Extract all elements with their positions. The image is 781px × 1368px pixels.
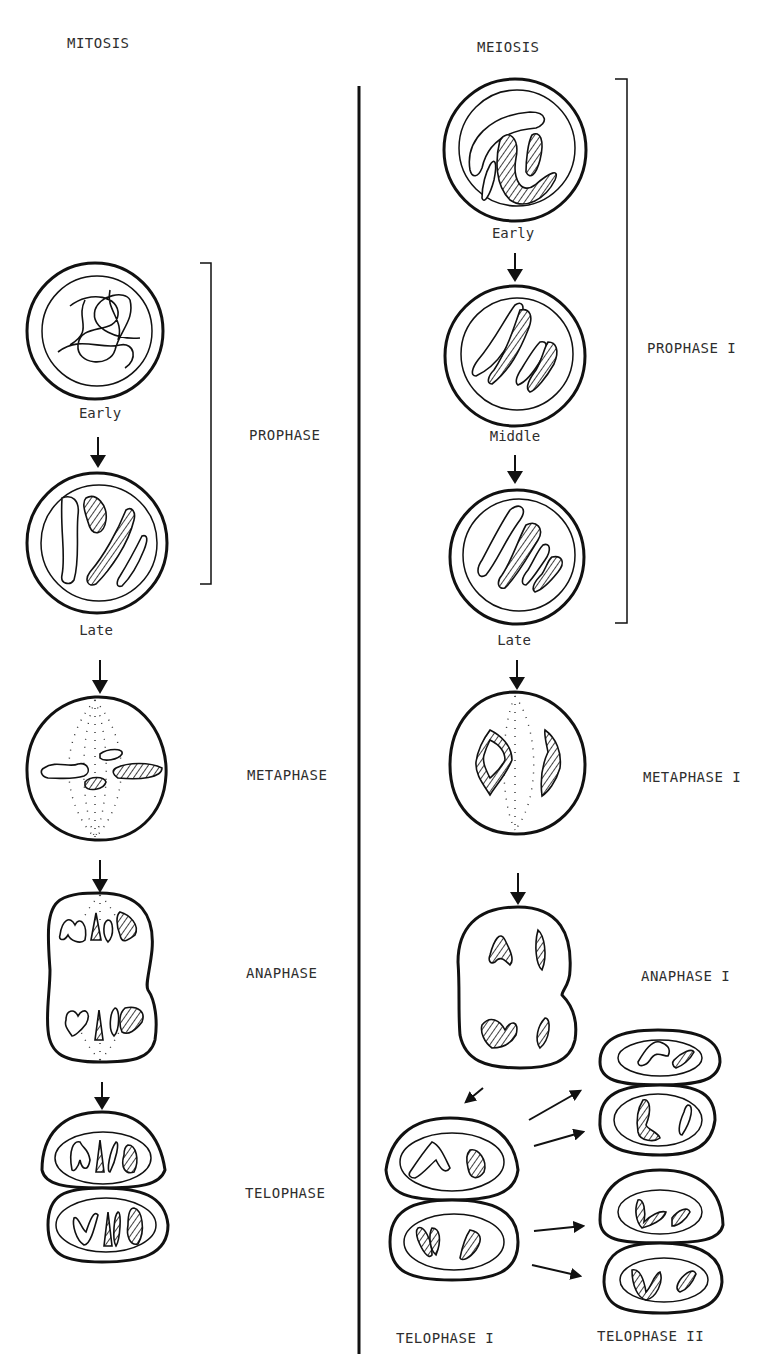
prophase-i-bracket <box>615 79 627 623</box>
anaphase-label: ANAPHASE <box>246 965 317 981</box>
meiosis-middle-prophase-cell <box>445 286 585 426</box>
arrow-right-icon <box>532 1265 580 1276</box>
arrow-down-icon <box>94 1082 110 1110</box>
arrow-diagonal-icon <box>466 1088 483 1102</box>
telophase-i-label: TELOPHASE I <box>396 1330 494 1346</box>
meiosis-late-prophase-cell <box>450 490 584 624</box>
arrow-right-icon <box>529 1091 580 1120</box>
arrow-right-icon <box>534 1226 583 1231</box>
arrow-down-icon <box>509 660 525 690</box>
prophase-bracket <box>200 263 211 584</box>
arrow-down-icon <box>507 455 523 484</box>
meiosis-telophase-i-cells <box>386 1118 518 1280</box>
mitosis-early-prophase-cell <box>27 263 163 399</box>
mitosis-telophase-cells <box>42 1112 168 1262</box>
prophase-label: PROPHASE <box>249 427 320 443</box>
telophase-ii-label: TELOPHASE II <box>597 1328 704 1344</box>
meiosis-late-label: Late <box>497 632 531 648</box>
prophase-i-label: PROPHASE I <box>647 340 736 356</box>
meiosis-anaphase-i-cell <box>458 907 576 1068</box>
metaphase-i-label: METAPHASE I <box>643 769 741 785</box>
meiosis-early-label: Early <box>492 225 534 241</box>
mitosis-early-label: Early <box>79 405 121 421</box>
arrow-down-icon <box>92 860 108 893</box>
mitosis-anaphase-cell <box>47 893 156 1062</box>
mitosis-title: MITOSIS <box>67 35 130 51</box>
meiosis-telophase-ii-lower-cells <box>600 1170 723 1313</box>
anaphase-i-label: ANAPHASE I <box>641 968 730 984</box>
arrow-down-icon <box>507 253 523 282</box>
arrow-down-icon <box>510 873 526 905</box>
arrow-down-icon <box>90 437 106 468</box>
telophase-label: TELOPHASE <box>245 1185 325 1201</box>
meiosis-early-prophase-cell <box>444 79 586 221</box>
mitosis-late-prophase-cell <box>27 473 167 613</box>
mitosis-late-label: Late <box>79 622 113 638</box>
meiosis-middle-label: Middle <box>490 428 541 444</box>
arrow-down-icon <box>92 660 108 694</box>
diagram-canvas <box>0 0 781 1368</box>
metaphase-label: METAPHASE <box>247 767 327 783</box>
meiosis-metaphase-i-cell <box>450 692 585 834</box>
arrow-right-icon <box>534 1132 583 1146</box>
meiosis-telophase-ii-upper-cells <box>600 1030 720 1155</box>
mitosis-metaphase-cell <box>27 697 166 840</box>
meiosis-title: MEIOSIS <box>477 39 540 55</box>
